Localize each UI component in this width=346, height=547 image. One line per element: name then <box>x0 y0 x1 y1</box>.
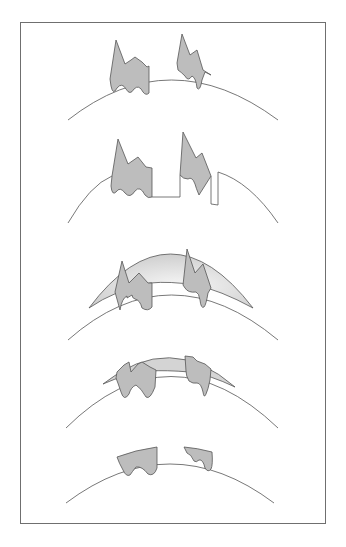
lesion-left-embedded <box>116 362 156 398</box>
panel-2 <box>68 132 278 223</box>
panel-4 <box>66 356 278 428</box>
lesion-right-cut <box>180 132 211 195</box>
lesion-left-final <box>117 447 157 475</box>
lesion-left-cut <box>111 139 152 198</box>
diagram-canvas <box>0 0 346 547</box>
dome-layer <box>89 254 253 308</box>
lesion-right-embedded <box>185 356 211 396</box>
panel-1 <box>68 34 278 120</box>
lesion-right-coated <box>183 249 211 307</box>
lesion-left <box>110 40 149 94</box>
panel-3 <box>68 249 278 340</box>
panel-5 <box>66 447 274 503</box>
